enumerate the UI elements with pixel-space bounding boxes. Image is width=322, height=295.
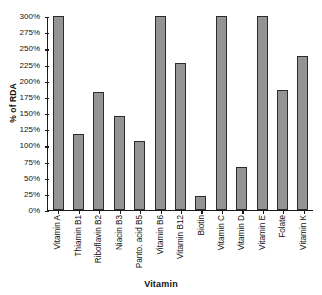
- y-axis-tick-mark: [45, 66, 49, 67]
- bars-container: [48, 17, 313, 210]
- bar[interactable]: [236, 167, 247, 210]
- x-axis-tick-label: Thiamin B1: [73, 215, 82, 256]
- y-axis-tick-mark: [45, 163, 49, 164]
- bar-slot: [89, 17, 109, 210]
- bar-slot: [170, 17, 190, 210]
- x-axis-tick-label: Vitamin D: [237, 215, 246, 250]
- bar-slot: [68, 17, 88, 210]
- bar-slot: [150, 17, 170, 210]
- x-label-slot: Vitamin C: [211, 213, 231, 275]
- x-label-slot: Vitamin B12: [170, 213, 190, 275]
- y-axis-tick-label: 0%: [6, 207, 40, 215]
- bar-slot: [211, 17, 231, 210]
- y-axis-tick-label: 200%: [6, 78, 40, 86]
- y-axis-tick-mark: [45, 146, 49, 147]
- x-label-slot: Vitamin D: [231, 213, 251, 275]
- bar-slot: [252, 17, 272, 210]
- y-axis-tick-mark: [45, 49, 49, 50]
- x-label-slot: Panto. acid B5: [129, 213, 149, 275]
- x-axis-tick-label: Vitamin B12: [176, 215, 185, 259]
- bar[interactable]: [175, 63, 186, 210]
- bar[interactable]: [297, 56, 308, 210]
- bar[interactable]: [195, 196, 206, 210]
- y-axis-tick-mark: [45, 17, 49, 18]
- bar-slot: [191, 17, 211, 210]
- x-axis-tick-label: Biotin: [196, 215, 205, 235]
- y-axis-tick-mark: [45, 98, 49, 99]
- x-axis-title: Vitamin: [0, 279, 322, 289]
- y-axis-tick-mark: [45, 130, 49, 131]
- x-axis-tick-label: Panto. acid B5: [135, 215, 144, 268]
- y-axis-tick-mark: [45, 114, 49, 115]
- x-axis-tick-label: Vitamin B6: [155, 215, 164, 254]
- y-axis-tick-mark: [45, 82, 49, 83]
- x-label-slot: Vitamin B6: [149, 213, 169, 275]
- bar[interactable]: [73, 134, 84, 210]
- bar-slot: [48, 17, 68, 210]
- y-axis-tick-mark: [45, 195, 49, 196]
- bar-slot: [232, 17, 252, 210]
- bar-slot: [130, 17, 150, 210]
- bar[interactable]: [216, 16, 227, 210]
- y-axis-tick-label: 300%: [6, 13, 40, 21]
- bar[interactable]: [114, 116, 125, 210]
- x-label-slot: Folate: [272, 213, 292, 275]
- y-axis-tick-mark: [45, 33, 49, 34]
- x-label-slot: Biotin: [190, 213, 210, 275]
- bar-chart: % of RDA 300%275%250%225%200%175%150%125…: [0, 0, 322, 295]
- bar[interactable]: [53, 16, 64, 210]
- x-axis-tick-label: Folate: [278, 215, 287, 238]
- x-axis-tick-label: Vitamin K: [298, 215, 307, 250]
- x-label-slot: Vitamin A: [47, 213, 67, 275]
- bar-slot: [293, 17, 313, 210]
- x-axis-tick-label: Vitamin C: [216, 215, 225, 250]
- x-label-slot: Thiamin B1: [67, 213, 87, 275]
- y-axis-tick-label: 100%: [6, 142, 40, 150]
- plot-area: [47, 17, 313, 211]
- x-label-slot: Niacin B3: [108, 213, 128, 275]
- bar[interactable]: [257, 16, 268, 210]
- y-axis-tick-mark: [45, 211, 49, 212]
- bar[interactable]: [134, 141, 145, 210]
- x-axis-tick-label: Vitamin A: [53, 215, 62, 249]
- y-axis-tick-label: 125%: [6, 126, 40, 134]
- x-axis-tick-label: Vitamin E: [257, 215, 266, 250]
- bar-slot: [109, 17, 129, 210]
- y-axis-tick-mark: [45, 179, 49, 180]
- bar[interactable]: [155, 16, 166, 210]
- y-axis-tick-label: 75%: [6, 159, 40, 167]
- y-axis-tick-label: 50%: [6, 175, 40, 183]
- x-axis-tick-label: Niacin B3: [114, 215, 123, 250]
- y-axis-tick-label: 175%: [6, 94, 40, 102]
- bar-slot: [272, 17, 292, 210]
- y-axis-tick-label: 225%: [6, 62, 40, 70]
- x-label-slot: Vitamin E: [252, 213, 272, 275]
- y-axis-tick-label: 25%: [6, 191, 40, 199]
- x-label-slot: Riboflavin B2: [88, 213, 108, 275]
- x-axis-tick-labels: Vitamin AThiamin B1Riboflavin B2Niacin B…: [47, 213, 313, 275]
- bar[interactable]: [93, 92, 104, 210]
- x-label-slot: Vitamin K: [293, 213, 313, 275]
- x-axis-tick-label: Riboflavin B2: [94, 215, 103, 263]
- y-axis-tick-label: 150%: [6, 110, 40, 118]
- y-axis-tick-label: 250%: [6, 45, 40, 53]
- bar[interactable]: [277, 90, 288, 210]
- y-axis-tick-labels: 300%275%250%225%200%175%150%125%100%75%5…: [6, 0, 40, 295]
- y-axis-tick-label: 275%: [6, 29, 40, 37]
